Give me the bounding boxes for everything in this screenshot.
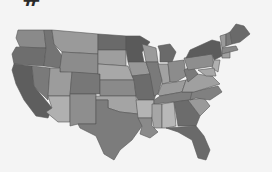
state-sd	[98, 50, 126, 66]
state-ne	[98, 64, 134, 80]
state-nm	[70, 94, 96, 126]
state-mt	[52, 30, 98, 54]
state-oh	[168, 60, 186, 82]
state-mi	[158, 44, 176, 62]
state-al	[162, 102, 176, 128]
state-me	[230, 24, 250, 44]
state-ks	[100, 80, 136, 96]
state-wy	[60, 52, 98, 74]
state-ar	[136, 100, 154, 118]
state-wa	[16, 30, 46, 48]
state-vt	[220, 34, 226, 48]
state-ms	[152, 104, 162, 128]
state-nd	[98, 34, 126, 50]
state-fl	[166, 126, 210, 160]
state-wi	[142, 44, 158, 62]
state-co	[70, 72, 100, 94]
state-or	[12, 47, 46, 66]
state-ut	[48, 68, 72, 96]
us-states-map	[0, 0, 272, 172]
